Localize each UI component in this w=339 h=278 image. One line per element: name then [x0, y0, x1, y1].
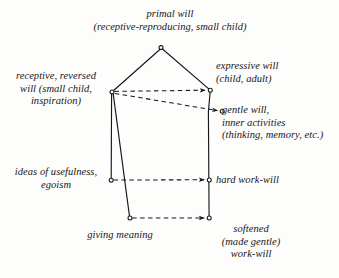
- label-primal-will: primal will (receptive-reproducing, smal…: [60, 8, 280, 33]
- node-bottom-left[interactable]: [128, 216, 132, 220]
- edge-apex-to-right-upper: [162, 48, 210, 89]
- edge-arrow-upper: [115, 90, 206, 91]
- label-softened-work-will: softened (made gentle) work-will: [196, 223, 306, 261]
- node-right-middle[interactable]: [207, 178, 211, 182]
- diagram-edges-solid: [111, 48, 210, 217]
- node-right-upper[interactable]: [208, 88, 212, 92]
- node-bottom-right[interactable]: [207, 216, 211, 220]
- label-expressive-will: expressive will (child, adult): [216, 60, 336, 85]
- figure-canvas: primal will (receptive-reproducing, smal…: [0, 0, 339, 278]
- label-gentle-will: gentle will, inner activities (thinking,…: [222, 104, 339, 142]
- edge-arrow-gentle: [115, 93, 218, 110]
- label-ideas-of-usefulness: ideas of usefulness, egoism: [2, 166, 110, 191]
- diagram-edges-dashed: [114, 90, 218, 218]
- node-apex[interactable]: [159, 46, 163, 50]
- edge-apex-to-left-upper: [113, 49, 162, 92]
- edge-left-upper-to-bottom-left: [113, 94, 129, 218]
- label-receptive-reversed-will: receptive, reversed will (small child, i…: [2, 70, 110, 108]
- label-giving-meaning: giving meaning: [66, 229, 174, 242]
- label-hard-work-will: hard work-will: [216, 174, 336, 187]
- node-left-upper[interactable]: [110, 90, 114, 94]
- edge-right-upper-to-bottom-right: [208, 91, 210, 217]
